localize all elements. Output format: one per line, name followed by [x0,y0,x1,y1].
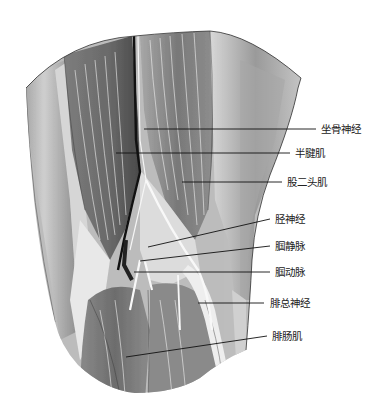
label-popliteal-vein: 腘静脉 [275,240,305,252]
knee-illustration [0,0,385,420]
knee-anatomy-diagram: 坐骨神经 半腱肌 股二头肌 胫神经 腘静脉 腘动脉 腓总神经 腓肠肌 [0,0,385,420]
label-common-peroneal-nerve: 腓总神经 [270,297,310,309]
label-gastrocnemius: 腓肠肌 [272,330,302,342]
label-biceps-femoris: 股二头肌 [287,176,327,188]
label-popliteal-artery: 腘动脉 [275,266,305,278]
label-tibial-nerve: 胫神经 [275,213,305,225]
label-semitendinosus: 半腱肌 [295,147,325,159]
label-sciatic-nerve: 坐骨神经 [321,123,361,135]
